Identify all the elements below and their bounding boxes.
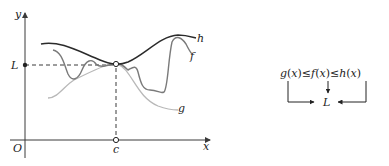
- inequality-diagram: g(x)≤f(x)≤h(x) L: [280, 67, 366, 109]
- point-c-open: [113, 137, 118, 142]
- g-curve-label: g: [178, 102, 185, 115]
- f-curve-label: f: [189, 50, 196, 63]
- arrow-h-to-L: [338, 81, 366, 102]
- dashed-guides: [25, 65, 116, 137]
- limit-L-label: L: [322, 96, 330, 109]
- origin-label: O: [13, 142, 22, 155]
- point-limit-open: [113, 61, 118, 66]
- curve-f: [53, 38, 192, 93]
- squeeze-theorem-diagram: y x O c L h f g g(x)≤f(x)≤h(x) L: [0, 0, 389, 166]
- inequality-expression: g(x)≤f(x)≤h(x): [280, 67, 361, 80]
- point-L-filled: [23, 63, 27, 67]
- curve-g: [48, 64, 178, 111]
- h-symbol: h: [339, 67, 346, 80]
- h-curve-label: h: [197, 32, 204, 45]
- arrow-g-to-L: [288, 81, 314, 102]
- c-label: c: [113, 143, 119, 156]
- y-axis-label: y: [14, 8, 22, 21]
- g-symbol: g: [280, 67, 287, 80]
- x-axis-label: x: [203, 140, 210, 153]
- curve-h: [41, 35, 196, 64]
- L-label: L: [10, 59, 18, 72]
